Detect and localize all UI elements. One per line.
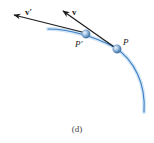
label-v-prime: v′	[25, 7, 32, 17]
particle-p	[113, 45, 121, 53]
label-p: P	[122, 37, 129, 47]
velocity-diagram: v′ v P′ P (d)	[0, 0, 154, 143]
particle-p-prime	[82, 30, 90, 38]
label-p-prime: P′	[74, 39, 83, 49]
label-v: v	[72, 7, 77, 17]
path-curve	[48, 29, 144, 112]
path-curve-glow	[48, 29, 144, 112]
figure-caption: (d)	[72, 124, 83, 134]
